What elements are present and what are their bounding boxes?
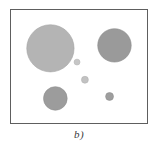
figure-panel-b: b) [0, 0, 158, 152]
circle-large-upper-left [27, 25, 74, 72]
particle-scatter-canvas [11, 10, 147, 123]
circle-layer [27, 25, 131, 110]
panel-caption: b) [0, 127, 158, 141]
circle-medium-upper-right [98, 29, 132, 62]
circle-small-lower-left [44, 87, 68, 111]
dot-center-upper [74, 59, 80, 65]
dot-center-lower-right [106, 93, 114, 101]
dot-center-lower [81, 76, 88, 83]
panel-frame [10, 9, 148, 124]
